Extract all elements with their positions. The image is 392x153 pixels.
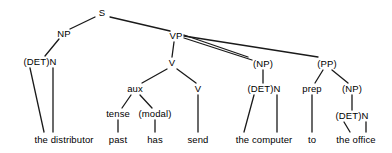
tree-leaf-w_send: send [187,135,208,145]
tree-node-s: S [99,8,105,18]
tree-leaf-w_to: to [308,135,316,145]
tree-edge [332,70,348,83]
tree-edge [172,42,174,57]
tree-edge-layer [0,0,392,153]
tree-leaf-w_past: past [109,135,127,145]
tree-edge [122,95,131,108]
tree-edge [140,95,152,108]
tree-leaf-w_has: has [147,135,163,145]
tree-edge [70,17,95,29]
tree-edge [30,68,44,132]
tree-node-np3: (NP) [342,84,362,94]
tree-leaf-w_theoff: the office [336,135,375,145]
tree-leaf-w_thecomp: the computer [236,135,293,145]
tree-edge [344,122,350,132]
tree-node-detn1: (DET)N [24,57,57,67]
tree-edge [184,36,318,57]
tree-edge [142,69,167,83]
tree-node-tense: tense [106,109,130,119]
tree-node-v1: V [169,58,175,68]
tree-node-prep: prep [302,84,321,94]
tree-node-modal: (modal) [139,109,172,119]
tree-edge [110,17,170,31]
tree-node-np1: NP [57,29,70,39]
tree-edge [177,69,196,83]
tree-node-detn3: (DET)N [336,111,369,121]
tree-node-np2: (NP) [253,59,273,69]
tree-edge [45,39,59,56]
tree-edge [184,35,248,57]
tree-edge [315,70,323,83]
tree-node-vp: VP [170,31,183,41]
tree-node-aux: aux [127,84,143,94]
tree-node-pp: (PP) [317,59,336,69]
tree-leaf-w_thedist: the distributor [34,135,93,145]
syntax-tree-diagram: SNPVP(DET)NV(NP)(PP)auxV(DET)Nprep(NP)te… [0,0,392,153]
tree-node-detn2: (DET)N [248,84,281,94]
tree-edge [244,95,254,132]
tree-node-v2: V [195,84,201,94]
